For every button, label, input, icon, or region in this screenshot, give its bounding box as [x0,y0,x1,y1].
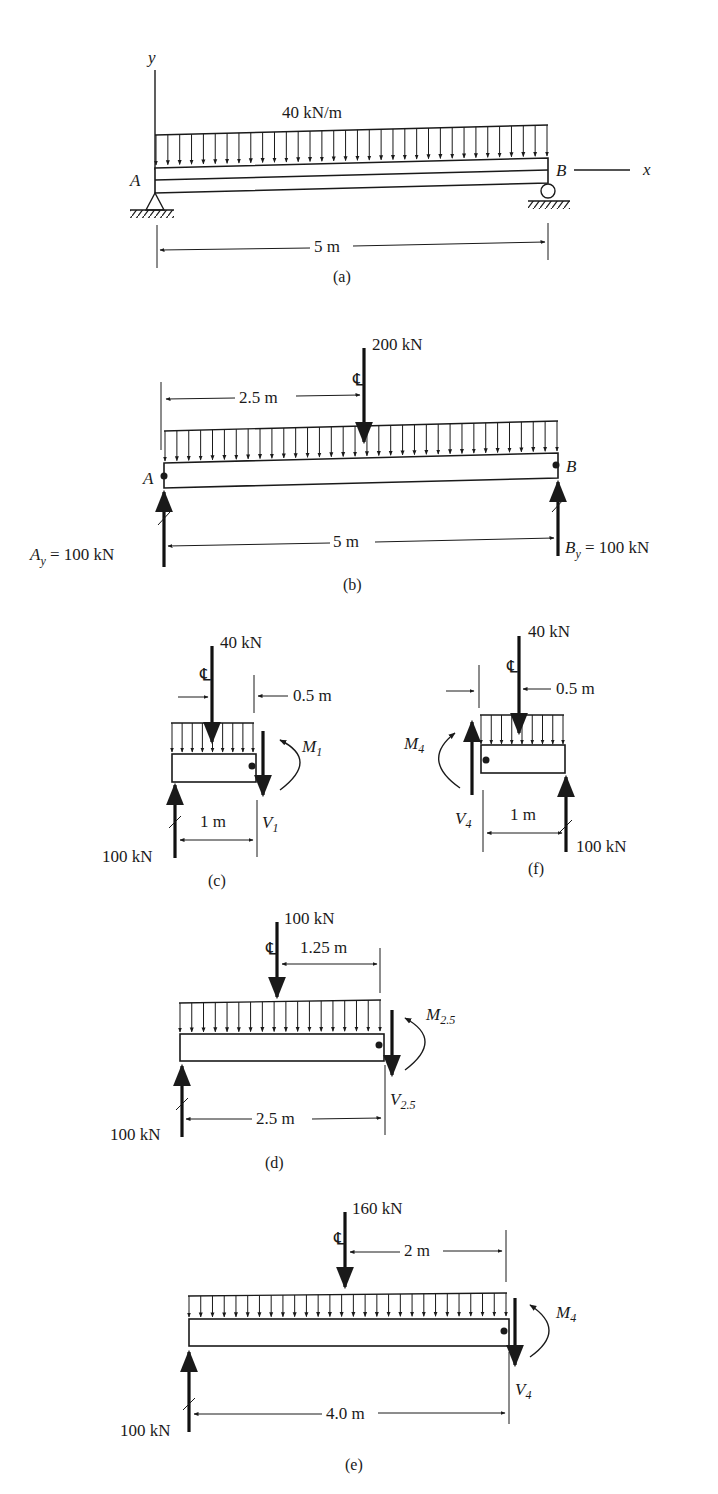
panel-e: 160 kN ℄ 2 m M4 4.0 m V4 100 kN (e) [120,1199,576,1474]
length-dimension-label: 4.0 m [326,1404,365,1423]
distributed-load-arrows [189,1293,506,1317]
reaction-label: 100 kN [576,837,627,856]
length-dimension-label: 2.5 m [256,1109,295,1128]
caption-f: (f) [528,860,544,878]
moment-label: M4 [555,1303,576,1325]
moment-label: M4 [403,734,424,756]
beam-segment [172,754,256,782]
shear-label: V4 [455,809,471,831]
caption-d: (d) [265,1154,284,1172]
point-load-label: 160 kN [352,1199,403,1218]
length-dimension-label: 1 m [200,812,226,831]
x-axis-label: x [642,160,651,179]
reaction-label: 100 kN [110,1125,161,1144]
panel-f: 40 kN ℄ 0.5 m M4 1 m V4 100 kN (f) [403,622,627,878]
beam-segment [189,1319,509,1346]
point-a-label: A [142,469,154,488]
span-dimension-label: 5 m [314,237,340,256]
shear-label: V1 [262,813,278,835]
offset-dimension-label: 2.5 m [239,388,278,407]
caption-b: (b) [343,576,362,594]
beam [164,453,558,488]
reaction-a-label: Ay = 100 kN [29,545,114,568]
distributed-load-arrows [481,715,563,744]
moment-arrow-icon [439,733,460,788]
offset-dimension-label: 1.25 m [300,938,347,957]
shear-label: V2.5 [390,1090,415,1112]
point-load-label: 40 kN [528,622,570,641]
caption-e: (e) [345,1456,363,1474]
moment-label: M1 [301,737,322,759]
panel-b: 200 kN ℄ 2.5 m A B 5 m Ay = 100 kN By = … [29,335,649,594]
distributed-load-top-line [155,125,548,135]
moment-arrow-icon [280,740,300,790]
span-dimension-label: 5 m [333,532,359,551]
point-load-label: 40 kN [220,633,262,652]
distributed-load-arrows [180,1000,380,1032]
offset-dimension-label: 0.5 m [556,679,595,698]
caption-c: (c) [208,872,226,890]
y-axis-label: y [146,48,156,67]
reaction-label: 100 kN [120,1421,171,1440]
reaction-label: 100 kN [102,847,153,866]
beam-free-body-diagrams: y 40 kN/m A B x 5 m (a) 200 kN [0,0,718,1494]
moment-label: M2.5 [425,1005,455,1027]
shear-label: V4 [515,1380,531,1402]
moment-arrow-icon [530,1305,549,1357]
centerline-icon: ℄ [352,370,364,389]
roller-support-icon [541,184,555,198]
beam-segment [180,1034,384,1061]
reaction-b-label: By = 100 kN [565,538,649,561]
distributed-load-label: 40 kN/m [282,103,342,122]
centerline-icon: ℄ [506,657,518,676]
point-load-label: 200 kN [372,335,423,354]
centerline-icon: ℄ [333,1229,345,1248]
panel-c: 40 kN ℄ 0.5 m M1 1 m V1 100 kN (c) [102,633,332,890]
point-b-label: B [556,161,567,180]
moment-arrow-icon [405,1018,425,1070]
point-b-label: B [566,457,577,476]
centerline-icon: ℄ [199,665,211,684]
panel-d: 100 kN ℄ 1.25 m M2.5 2.5 m V2.5 100 kN (… [110,909,455,1172]
length-dimension-label: 1 m [510,805,536,824]
offset-dimension-label: 0.5 m [293,686,332,705]
distributed-load-arrows [172,723,253,752]
caption-a: (a) [333,268,351,286]
point-load-label: 100 kN [284,909,335,928]
pin-support-icon [146,193,164,210]
offset-dimension-label: 2 m [404,1241,430,1260]
point-a-label: A [129,171,141,190]
centerline-icon: ℄ [265,939,277,958]
panel-a: y 40 kN/m A B x 5 m (a) [129,48,651,286]
beam-segment [481,745,565,773]
